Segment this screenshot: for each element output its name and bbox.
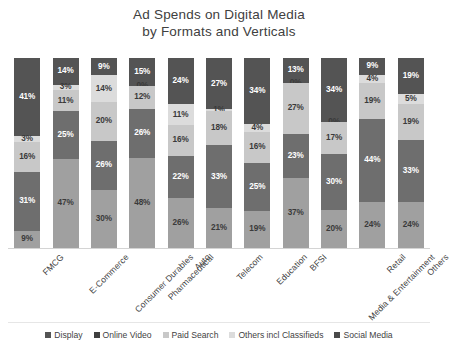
bar-segment[interactable]: 26% [91, 141, 117, 191]
bar-column: 41%3%16%31%9% [8, 58, 46, 248]
segment-value-label: 19% [403, 72, 419, 80]
segment-value-label: 9% [21, 235, 33, 243]
bar-column: 9%14%20%26%30% [85, 58, 123, 248]
bar-segment[interactable]: 33% [398, 140, 424, 203]
segment-value-label: 19% [403, 118, 419, 126]
bar-segment[interactable]: 27% [206, 58, 232, 109]
bar-column: 24%11%16%22%26% [161, 58, 199, 248]
bar-segment[interactable]: 34% [321, 58, 347, 122]
bar-segment[interactable]: 27% [283, 83, 309, 134]
segment-value-label: 9% [367, 62, 379, 70]
bar-segment[interactable]: 24% [359, 202, 385, 248]
bar-segment[interactable]: 19% [359, 83, 385, 119]
stacked-bar[interactable]: 41%3%16%31%9% [14, 58, 40, 248]
segment-value-label: 16% [173, 136, 189, 144]
bar-segment[interactable]: 19% [244, 211, 270, 248]
bar-segment[interactable]: 11% [168, 104, 194, 125]
segment-value-label: 16% [19, 153, 35, 161]
bar-segment[interactable]: 14% [91, 75, 117, 102]
segment-value-label: 47% [57, 199, 73, 207]
bar-segment[interactable]: 19% [398, 58, 424, 94]
stacked-bar[interactable]: 13%0%27%23%37% [283, 58, 309, 248]
bar-column: 34%4%16%25%19% [238, 58, 276, 248]
segment-value-label: 25% [249, 183, 265, 191]
segment-value-label: 24% [173, 77, 189, 85]
bar-segment[interactable]: 44% [359, 119, 385, 203]
bar-segment[interactable]: 19% [398, 104, 424, 140]
bar-segment[interactable]: 30% [321, 154, 347, 210]
bar-column: 34%0%17%30%20% [315, 58, 353, 248]
bar-segment[interactable]: 17% [321, 122, 347, 154]
bar-segment[interactable]: 30% [91, 190, 117, 248]
bar-segment[interactable]: 26% [129, 109, 155, 158]
stacked-bar[interactable]: 24%11%16%22%26% [168, 58, 194, 248]
segment-value-label: 4% [252, 124, 264, 132]
segment-value-label: 23% [288, 152, 304, 160]
bar-segment[interactable]: 9% [91, 58, 117, 75]
legend-item[interactable]: Online Video [94, 330, 152, 340]
segment-value-label: 19% [249, 225, 265, 233]
legend-swatch-icon [334, 332, 340, 338]
bar-segment[interactable]: 48% [129, 158, 155, 248]
bar-segment[interactable]: 25% [53, 111, 79, 159]
bar-segment[interactable]: 47% [53, 159, 79, 248]
bar-segment[interactable]: 33% [206, 145, 232, 208]
plot-area: 41%3%16%31%9%14%3%11%25%47%9%14%20%26%30… [8, 58, 430, 248]
segment-value-label: 20% [96, 117, 112, 125]
legend-label: Others incl Classifieds [238, 330, 323, 340]
bar-segment[interactable]: 26% [168, 198, 194, 248]
segment-value-label: 44% [364, 156, 380, 164]
bar-segment[interactable]: 34% [244, 58, 270, 124]
legend-swatch-icon [163, 332, 169, 338]
bar-segment[interactable]: 31% [14, 172, 40, 231]
bar-segment[interactable]: 18% [206, 111, 232, 145]
stacked-bar[interactable]: 34%4%16%25%19% [244, 58, 270, 248]
bar-segment[interactable]: 9% [14, 231, 40, 248]
category-label: Education [275, 252, 310, 287]
stacked-bar[interactable]: 27%1%18%33%21% [206, 58, 232, 248]
bar-segment[interactable]: 16% [244, 132, 270, 163]
legend-item[interactable]: Others incl Classifieds [229, 330, 323, 340]
bar-segment[interactable]: 41% [14, 58, 40, 136]
segment-value-label: 30% [326, 178, 342, 186]
segment-value-label: 25% [57, 131, 73, 139]
bar-segment[interactable]: 4% [359, 75, 385, 83]
bar-segment[interactable]: 23% [283, 134, 309, 178]
legend-item[interactable]: Paid Search [163, 330, 219, 340]
bar-segment[interactable]: 4% [244, 124, 270, 132]
bar-segment[interactable]: 16% [14, 142, 40, 172]
stacked-bar[interactable]: 14%3%11%25%47% [53, 58, 79, 248]
bar-segment[interactable]: 37% [283, 178, 309, 248]
bar-segment[interactable]: 12% [129, 86, 155, 109]
bar-segment[interactable]: 25% [244, 163, 270, 211]
segment-value-label: 24% [403, 221, 419, 229]
bar-segment[interactable]: 24% [168, 58, 194, 104]
category-label: Retail [385, 252, 408, 275]
legend-label: Online Video [103, 330, 152, 340]
bar-segment[interactable]: 16% [168, 125, 194, 156]
stacked-bar[interactable]: 19%5%19%33%24% [398, 58, 424, 248]
category-axis-labels: FMCGE-CommerceConsumer DurablesPharmaceu… [8, 250, 430, 316]
chart-title-line1: Ad Spends on Digital Media [133, 7, 305, 22]
legend-item[interactable]: Display [45, 330, 82, 340]
stacked-bar[interactable]: 9%4%19%44%24% [359, 58, 385, 248]
bar-segment[interactable]: 11% [53, 90, 79, 111]
bar-segment[interactable]: 22% [168, 156, 194, 198]
stacked-bar[interactable]: 9%14%20%26%30% [91, 58, 117, 248]
bar-column: 15%0%12%26%48% [123, 58, 161, 248]
segment-value-label: 17% [326, 134, 342, 142]
bar-segment[interactable]: 14% [53, 58, 79, 85]
stacked-bar[interactable]: 15%0%12%26%48% [129, 58, 155, 248]
bar-segment[interactable]: 24% [398, 202, 424, 248]
bar-segment[interactable]: 9% [359, 58, 385, 75]
bar-segment[interactable]: 20% [91, 102, 117, 140]
stacked-bar[interactable]: 34%0%17%30%20% [321, 58, 347, 248]
bar-segment[interactable]: 20% [321, 210, 347, 248]
bar-segment[interactable]: 5% [398, 94, 424, 104]
legend-item[interactable]: Social Media [334, 330, 392, 340]
category-label: FMCG [41, 252, 66, 277]
segment-value-label: 5% [405, 95, 417, 103]
category-label: E-Commerce [87, 252, 131, 296]
bar-segment[interactable]: 21% [206, 208, 232, 248]
category-label: Telecom [235, 252, 265, 282]
